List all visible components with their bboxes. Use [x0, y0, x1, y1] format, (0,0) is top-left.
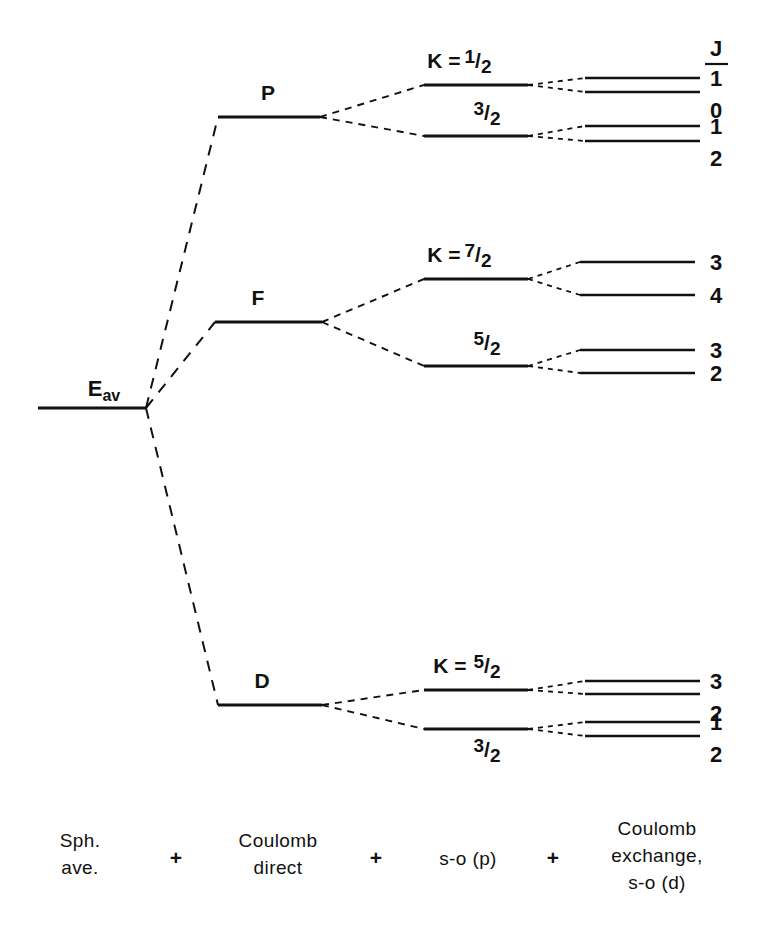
connector-eav-to-term-p — [146, 117, 218, 408]
connector-eav-to-term-d — [146, 408, 218, 705]
connector-k-to-j — [528, 262, 580, 279]
connector-term-to-k — [322, 279, 424, 322]
caption-line: s-o (d) — [628, 872, 686, 893]
j-value-label: 2 — [710, 742, 722, 767]
caption-line: direct — [254, 857, 303, 878]
k-prefix-label: K = — [433, 654, 466, 677]
term-label-f: F — [252, 286, 265, 309]
term-label-d: D — [254, 669, 269, 692]
connector-k-to-j — [528, 78, 585, 85]
k-value-label: 1/2 — [465, 46, 492, 77]
caption-plus-sign: + — [547, 846, 559, 869]
j-value-label: 3 — [710, 338, 722, 363]
connector-term-to-k — [322, 322, 424, 366]
j-value-label: 1 — [710, 114, 722, 139]
j-value-label: 1 — [710, 710, 722, 735]
connector-k-to-j — [528, 690, 585, 694]
connector-term-to-k — [320, 117, 424, 136]
k-prefix-label: K = — [427, 49, 460, 72]
j-value-label: 4 — [710, 283, 723, 308]
j-value-label: 2 — [710, 361, 722, 386]
j-value-label: 3 — [710, 250, 722, 275]
caption-line: Sph. — [60, 830, 101, 851]
term-label-p: P — [261, 81, 275, 104]
connector-k-to-j — [528, 681, 585, 690]
connector-term-to-k — [322, 705, 424, 729]
connector-k-to-j — [528, 722, 585, 729]
connector-k-to-j — [528, 136, 585, 141]
j-value-label: 2 — [710, 146, 722, 171]
energy-level-diagram: EavJPK =1/2103/212FK =7/2345/232DK =5/23… — [0, 0, 761, 927]
connector-k-to-j — [528, 350, 580, 366]
eav-label: Eav — [88, 376, 121, 404]
k-value-label: 7/2 — [465, 240, 492, 271]
caption-line: s-o (p) — [439, 848, 497, 869]
caption-line: Coulomb — [618, 818, 697, 839]
k-value-label: 3/2 — [474, 98, 501, 129]
connector-term-to-k — [320, 85, 424, 117]
k-value-label: 5/2 — [474, 651, 501, 682]
caption-line: ave. — [61, 857, 99, 878]
j-value-label: 3 — [710, 669, 722, 694]
connector-term-to-k — [322, 690, 424, 705]
k-value-label: 5/2 — [474, 328, 501, 359]
diagram-canvas: EavJPK =1/2103/212FK =7/2345/232DK =5/23… — [0, 0, 761, 927]
j-value-label: 1 — [710, 66, 722, 91]
caption-plus-sign: + — [170, 846, 182, 869]
connector-k-to-j — [528, 279, 580, 295]
caption-line: exchange, — [611, 845, 702, 866]
diagram-layer: EavJPK =1/2103/212FK =7/2345/232DK =5/23… — [38, 36, 728, 893]
k-value-label: 3/2 — [474, 735, 501, 766]
connector-k-to-j — [528, 729, 585, 736]
k-prefix-label: K = — [427, 243, 460, 266]
caption-line: Coulomb — [239, 830, 318, 851]
j-column-header: J — [710, 36, 722, 61]
caption-plus-sign: + — [370, 846, 382, 869]
connector-k-to-j — [528, 85, 585, 92]
connector-k-to-j — [528, 366, 580, 373]
connector-k-to-j — [528, 126, 585, 136]
